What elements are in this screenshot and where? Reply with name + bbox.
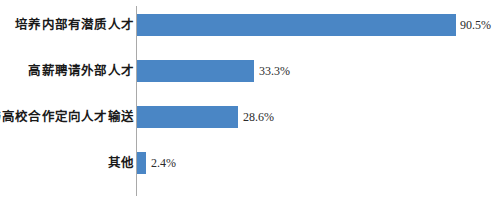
bar-value-label: 33.3%	[259, 60, 290, 82]
bar-segment[interactable]	[137, 106, 238, 128]
bar-value-label: 90.5%	[460, 14, 491, 36]
bar-category-label: 高薪聘请外部人才	[28, 60, 134, 82]
chart-bar-row: 高薪聘请外部人才 33.3%	[0, 60, 492, 82]
bar-segment[interactable]	[137, 60, 254, 82]
bar-chart: 培养内部有潜质人才 90.5% 高薪聘请外部人才 33.3% 与高校合作定向人才…	[0, 0, 492, 208]
chart-bar-row: 与高校合作定向人才输送 28.6%	[0, 106, 492, 128]
chart-bar-row: 培养内部有潜质人才 90.5%	[0, 14, 492, 36]
bar-segment[interactable]	[137, 152, 146, 174]
bar-value-label: 28.6%	[243, 106, 274, 128]
bar-category-label: 与高校合作定向人才输送	[0, 106, 134, 128]
chart-bar-row: 其他 2.4%	[0, 152, 492, 174]
bar-category-label: 培养内部有潜质人才	[15, 14, 134, 36]
bar-value-label: 2.4%	[151, 152, 176, 174]
bar-category-label: 其他	[108, 152, 134, 174]
bar-segment[interactable]	[137, 14, 456, 36]
